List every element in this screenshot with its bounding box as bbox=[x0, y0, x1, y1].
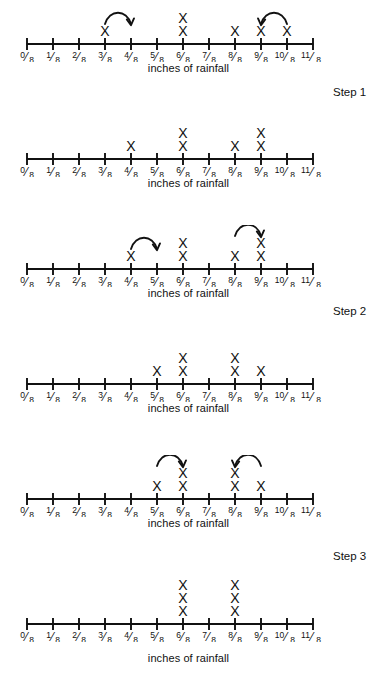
tick-label-1-over-8: 1⁄8 bbox=[46, 505, 60, 518]
svg-text:1: 1 bbox=[46, 165, 51, 175]
number-line-panel-2: 0⁄81⁄82⁄83⁄84⁄85⁄86⁄87⁄88⁄89⁄810⁄811⁄8XX… bbox=[0, 115, 377, 177]
svg-text:7: 7 bbox=[202, 390, 207, 400]
svg-text:8: 8 bbox=[211, 510, 216, 517]
tick-label-3-over-8: 3⁄8 bbox=[98, 505, 112, 518]
svg-text:8: 8 bbox=[290, 635, 295, 642]
svg-text:8: 8 bbox=[228, 630, 233, 640]
x-mark-4-over-8: X bbox=[126, 248, 136, 264]
svg-text:8: 8 bbox=[107, 170, 112, 177]
number-line-1: 0⁄81⁄82⁄83⁄84⁄85⁄86⁄87⁄88⁄89⁄810⁄811⁄8XX… bbox=[0, 0, 377, 62]
tick-label-7-over-8: 7⁄8 bbox=[202, 630, 216, 643]
svg-text:8: 8 bbox=[228, 390, 233, 400]
svg-text:8: 8 bbox=[263, 280, 268, 287]
tick-label-9-over-8: 9⁄8 bbox=[254, 275, 268, 288]
svg-text:4: 4 bbox=[124, 50, 129, 60]
svg-text:8: 8 bbox=[159, 280, 164, 287]
tick-label-9-over-8: 9⁄8 bbox=[254, 50, 268, 63]
svg-text:0: 0 bbox=[20, 630, 25, 640]
tick-label-1-over-8: 1⁄8 bbox=[46, 165, 60, 178]
svg-text:8: 8 bbox=[81, 510, 86, 517]
svg-text:8: 8 bbox=[211, 170, 216, 177]
svg-text:8: 8 bbox=[263, 635, 268, 642]
svg-text:10: 10 bbox=[275, 50, 285, 60]
svg-text:8: 8 bbox=[29, 395, 34, 402]
svg-text:7: 7 bbox=[202, 505, 207, 515]
tick-label-6-over-8: 6⁄8 bbox=[176, 275, 190, 288]
svg-text:8: 8 bbox=[81, 170, 86, 177]
tick-label-6-over-8: 6⁄8 bbox=[176, 165, 190, 178]
tick-label-10-over-8: 10⁄8 bbox=[275, 630, 295, 643]
tick-label-5-over-8: 5⁄8 bbox=[150, 165, 164, 178]
svg-text:8: 8 bbox=[29, 170, 34, 177]
svg-text:11: 11 bbox=[301, 630, 310, 640]
svg-text:8: 8 bbox=[107, 280, 112, 287]
tick-label-8-over-8: 8⁄8 bbox=[228, 275, 242, 288]
x-mark-5-over-8: X bbox=[152, 478, 162, 494]
svg-text:3: 3 bbox=[98, 390, 103, 400]
figure-canvas: 0⁄81⁄82⁄83⁄84⁄85⁄86⁄87⁄88⁄89⁄810⁄811⁄8XX… bbox=[0, 0, 377, 684]
svg-text:8: 8 bbox=[107, 510, 112, 517]
tick-label-8-over-8: 8⁄8 bbox=[228, 390, 242, 403]
svg-text:9: 9 bbox=[254, 630, 259, 640]
tick-label-10-over-8: 10⁄8 bbox=[275, 275, 295, 288]
svg-text:9: 9 bbox=[254, 50, 259, 60]
svg-text:0: 0 bbox=[20, 505, 25, 515]
tick-label-5-over-8: 5⁄8 bbox=[150, 390, 164, 403]
svg-text:3: 3 bbox=[98, 630, 103, 640]
svg-text:8: 8 bbox=[55, 280, 60, 287]
svg-text:8: 8 bbox=[316, 635, 321, 642]
svg-text:9: 9 bbox=[254, 275, 259, 285]
tick-label-4-over-8: 4⁄8 bbox=[124, 275, 138, 288]
svg-text:8: 8 bbox=[316, 395, 321, 402]
svg-text:8: 8 bbox=[159, 395, 164, 402]
tick-label-2-over-8: 2⁄8 bbox=[72, 275, 86, 288]
number-line-panel-6: 0⁄81⁄82⁄83⁄84⁄85⁄86⁄87⁄88⁄89⁄810⁄811⁄8XX… bbox=[0, 580, 377, 642]
tick-label-4-over-8: 4⁄8 bbox=[124, 505, 138, 518]
number-line-panel-1: 0⁄81⁄82⁄83⁄84⁄85⁄86⁄87⁄88⁄89⁄810⁄811⁄8XX… bbox=[0, 0, 377, 62]
tick-label-5-over-8: 5⁄8 bbox=[150, 630, 164, 643]
svg-text:6: 6 bbox=[176, 275, 181, 285]
svg-text:8: 8 bbox=[185, 55, 190, 62]
svg-text:11: 11 bbox=[301, 50, 310, 60]
tick-label-10-over-8: 10⁄8 bbox=[275, 390, 295, 403]
svg-text:10: 10 bbox=[275, 165, 285, 175]
axis-caption-2: inches of rainfall bbox=[0, 177, 377, 189]
tick-label-6-over-8: 6⁄8 bbox=[176, 505, 190, 518]
svg-text:8: 8 bbox=[81, 280, 86, 287]
svg-text:8: 8 bbox=[55, 395, 60, 402]
tick-label-10-over-8: 10⁄8 bbox=[275, 505, 295, 518]
svg-text:2: 2 bbox=[72, 630, 77, 640]
svg-text:11: 11 bbox=[301, 505, 310, 515]
svg-text:6: 6 bbox=[176, 505, 181, 515]
tick-label-7-over-8: 7⁄8 bbox=[202, 505, 216, 518]
x-mark-8-over-8: X bbox=[230, 350, 240, 366]
svg-text:10: 10 bbox=[275, 505, 285, 515]
tick-label-9-over-8: 9⁄8 bbox=[254, 390, 268, 403]
number-line-panel-4: 0⁄81⁄82⁄83⁄84⁄85⁄86⁄87⁄88⁄89⁄810⁄811⁄8XX… bbox=[0, 340, 377, 402]
svg-text:3: 3 bbox=[98, 505, 103, 515]
svg-text:8: 8 bbox=[211, 280, 216, 287]
svg-text:8: 8 bbox=[185, 635, 190, 642]
svg-text:8: 8 bbox=[263, 395, 268, 402]
number-line-6: 0⁄81⁄82⁄83⁄84⁄85⁄86⁄87⁄88⁄89⁄810⁄811⁄8XX… bbox=[0, 580, 377, 642]
tick-label-5-over-8: 5⁄8 bbox=[150, 275, 164, 288]
svg-text:8: 8 bbox=[237, 280, 242, 287]
svg-text:8: 8 bbox=[228, 165, 233, 175]
svg-text:8: 8 bbox=[107, 395, 112, 402]
tick-label-0-over-8: 0⁄8 bbox=[20, 165, 34, 178]
svg-text:8: 8 bbox=[290, 395, 295, 402]
tick-label-2-over-8: 2⁄8 bbox=[72, 630, 86, 643]
svg-text:2: 2 bbox=[72, 50, 77, 60]
number-line-4: 0⁄81⁄82⁄83⁄84⁄85⁄86⁄87⁄88⁄89⁄810⁄811⁄8XX… bbox=[0, 340, 377, 402]
x-mark-9-over-8: X bbox=[256, 363, 266, 379]
tick-label-11-over-8: 11⁄8 bbox=[301, 630, 321, 643]
x-mark-10-over-8: X bbox=[282, 23, 292, 39]
svg-text:8: 8 bbox=[55, 510, 60, 517]
svg-text:8: 8 bbox=[159, 170, 164, 177]
svg-text:8: 8 bbox=[133, 635, 138, 642]
svg-text:5: 5 bbox=[150, 390, 155, 400]
svg-text:8: 8 bbox=[237, 170, 242, 177]
tick-label-10-over-8: 10⁄8 bbox=[275, 50, 295, 63]
x-mark-8-over-8: X bbox=[230, 23, 240, 39]
svg-text:8: 8 bbox=[263, 510, 268, 517]
